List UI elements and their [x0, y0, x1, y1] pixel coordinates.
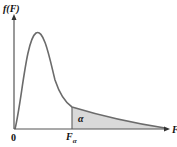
x-axis-arrow-icon	[164, 127, 170, 132]
shaded-area-label: α	[78, 113, 84, 124]
origin-label: 0	[11, 132, 16, 143]
critical-value-main: F	[66, 131, 73, 142]
y-axis-arrow-icon	[12, 14, 17, 20]
f-distribution-plot	[0, 0, 177, 147]
critical-value-subscript: α	[73, 137, 77, 145]
x-axis-label: F	[172, 124, 177, 135]
y-axis-label: f(F)	[3, 3, 20, 14]
critical-value-label: Fα	[66, 131, 77, 145]
